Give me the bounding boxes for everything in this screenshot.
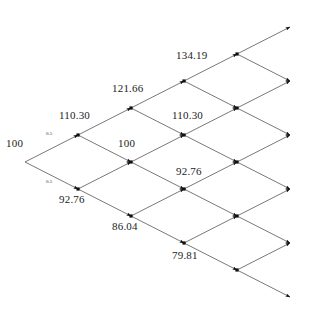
binomial-tree-figure: 100110.3092.76121.6610086.04134.19110.30… — [0, 0, 327, 320]
lattice-node-marker — [235, 160, 238, 163]
lattice-edge — [237, 27, 290, 54]
lattice-edge — [131, 216, 184, 243]
lattice-edge — [237, 108, 290, 135]
lattice-edge — [237, 135, 290, 162]
lattice-edge — [237, 243, 290, 270]
lattice-node-marker — [235, 268, 238, 271]
lattice-edge — [237, 54, 290, 81]
lattice-edge — [237, 270, 290, 297]
lattice-node-marker — [182, 79, 185, 82]
node-value-label: 110.30 — [59, 110, 90, 121]
branch-probability-label: 0.5 — [46, 131, 52, 136]
lattice-edges — [25, 27, 290, 297]
lattice-edge — [237, 189, 290, 216]
node-value-label: 92.76 — [176, 166, 202, 177]
lattice-edge — [184, 135, 237, 162]
node-value-label: 79.81 — [172, 250, 198, 261]
node-value-label: 134.19 — [176, 50, 207, 61]
lattice-edge — [184, 189, 237, 216]
lattice-canvas — [0, 0, 327, 320]
lattice-node-marker — [182, 187, 185, 190]
lattice-edge — [237, 216, 290, 243]
lattice-edge — [78, 162, 131, 189]
node-value-label: 110.30 — [172, 110, 203, 121]
lattice-node-marker — [235, 214, 238, 217]
lattice-node-marker — [129, 160, 132, 163]
lattice-edge — [25, 162, 78, 189]
node-value-label: 100 — [118, 138, 135, 149]
lattice-edge — [184, 216, 237, 243]
lattice-node-marker — [235, 106, 238, 109]
node-value-label: 121.66 — [112, 83, 143, 94]
lattice-node-marker — [182, 133, 185, 136]
lattice-edge — [131, 135, 184, 162]
lattice-edge — [237, 81, 290, 108]
lattice-node-marker — [235, 52, 238, 55]
node-value-label: 100 — [6, 138, 23, 149]
lattice-edge — [25, 135, 78, 162]
node-value-label: 86.04 — [112, 221, 138, 232]
lattice-edge — [78, 189, 131, 216]
lattice-edge — [184, 81, 237, 108]
lattice-node-marker — [182, 241, 185, 244]
lattice-edge — [237, 162, 290, 189]
branch-probability-label: 0.5 — [46, 179, 52, 184]
lattice-node-marker — [76, 133, 79, 136]
lattice-nodes — [76, 52, 238, 271]
lattice-node-marker — [129, 214, 132, 217]
lattice-node-marker — [76, 187, 79, 190]
lattice-edge — [131, 189, 184, 216]
node-value-label: 92.76 — [59, 194, 85, 205]
lattice-node-marker — [129, 106, 132, 109]
